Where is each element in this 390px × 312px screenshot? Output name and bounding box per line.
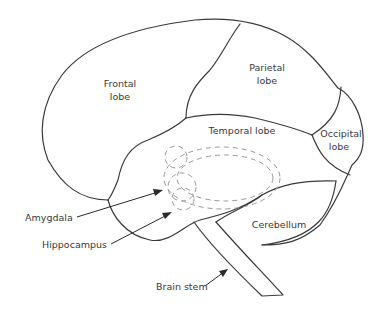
central-sulcus [186, 24, 240, 118]
temporal-front-boundary [108, 118, 186, 200]
arrow-brain-stem [205, 269, 228, 286]
label-hippocampus: Hippocampus [42, 239, 107, 250]
label-cerebellum: Cerebellum [252, 219, 306, 230]
label-occipital-line2: lobe [329, 141, 349, 152]
temporal-lower-boundary [108, 181, 336, 241]
label-parietal-line1: Parietal [249, 62, 285, 73]
label-brain-stem: Brain stem [156, 281, 208, 292]
hippocampus-outer [164, 147, 280, 209]
label-occipital-line1: Occipital [320, 128, 361, 139]
label-frontal-line2: lobe [110, 91, 130, 102]
label-frontal-line1: Frontal [104, 78, 137, 89]
arrow-amygdala [77, 189, 163, 217]
amygdala-circle-1 [165, 146, 187, 168]
cerebellum-outline [216, 181, 336, 245]
brain-diagram: Frontal lobe Parietal lobe Temporal lobe… [0, 0, 390, 312]
brain-outline [42, 19, 363, 245]
label-amygdala: Amygdala [25, 212, 73, 223]
label-parietal-line2: lobe [257, 75, 277, 86]
hippocampus-inner [177, 155, 273, 201]
label-temporal: Temporal lobe [208, 125, 276, 136]
